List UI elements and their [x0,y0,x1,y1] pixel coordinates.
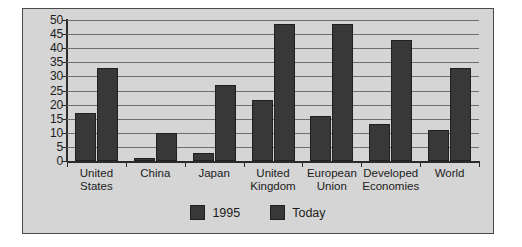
y-tick-mark-45 [62,34,67,35]
y-tick-label-50: 50 [29,14,63,26]
y-tick-label-5: 5 [29,141,63,153]
chart-container: 05101520253035404550 1995Today UnitedSta… [22,8,494,234]
x-tick-label-japan: Japan [185,167,244,180]
legend-label: 1995 [212,206,240,220]
bar-today-china [156,133,177,161]
legend-label: Today [292,206,325,220]
x-tick-label-world: World [420,167,479,180]
bar-today-japan [215,85,236,161]
y-tick-label-15: 15 [29,113,63,125]
bar-today-united-states [97,68,118,161]
bar-1995-european-union [310,116,331,161]
x-tick-label-line: European [302,167,361,180]
bar-today-united-kingdom [274,24,295,161]
x-tick-label-line: Economies [361,180,420,193]
legend-swatch-icon [270,205,285,220]
bar-today-european-union [332,24,353,161]
bar-today-world [450,68,471,161]
bar-1995-united-states [75,113,96,161]
x-tick-label-line: China [126,167,185,180]
y-tick-mark-10 [62,133,67,134]
x-tick-label-line: Developed [361,167,420,180]
x-tick-label-european-union: EuropeanUnion [302,167,361,193]
y-tick-mark-40 [62,48,67,49]
y-tick-label-25: 25 [29,85,63,97]
x-tick-label-united-kingdom: UnitedKingdom [244,167,303,193]
bar-1995-developed-economies [369,124,390,161]
x-tick-label-united-states: UnitedStates [67,167,126,193]
y-axis-tick-labels: 05101520253035404550 [23,20,63,161]
x-tick-label-china: China [126,167,185,180]
legend-item-today[interactable]: Today [270,205,325,220]
x-axis-line [67,161,479,163]
x-tick-label-line: United [244,167,303,180]
x-tick-label-line: Union [302,180,361,193]
y-tick-label-45: 45 [29,28,63,40]
x-axis-start-tick [67,161,68,167]
y-tick-label-10: 10 [29,127,63,139]
x-tick-label-line: World [420,167,479,180]
bar-1995-japan [193,153,214,161]
y-tick-label-0: 0 [29,155,63,167]
y-tick-label-35: 35 [29,56,63,68]
bar-today-developed-economies [391,40,412,161]
x-tick-label-line: Kingdom [244,180,303,193]
y-tick-mark-35 [62,62,67,63]
x-axis-end-tick [479,161,480,167]
y-tick-label-30: 30 [29,70,63,82]
y-tick-mark-30 [62,76,67,77]
chart-legend: 1995Today [23,205,493,220]
y-tick-label-40: 40 [29,42,63,54]
x-tick-label-line: United [67,167,126,180]
legend-swatch-icon [190,205,205,220]
y-tick-label-20: 20 [29,99,63,111]
plot-area [67,20,479,161]
x-tick-label-developed-economies: DevelopedEconomies [361,167,420,193]
y-tick-mark-25 [62,91,67,92]
y-tick-mark-15 [62,119,67,120]
legend-item-1995[interactable]: 1995 [190,205,240,220]
bar-1995-united-kingdom [252,100,273,161]
x-tick-label-line: Japan [185,167,244,180]
y-tick-mark-5 [62,147,67,148]
y-tick-mark-50 [62,20,67,21]
gridline-50 [67,20,479,21]
bar-1995-world [428,130,449,161]
y-tick-mark-20 [62,105,67,106]
x-tick-label-line: States [67,180,126,193]
